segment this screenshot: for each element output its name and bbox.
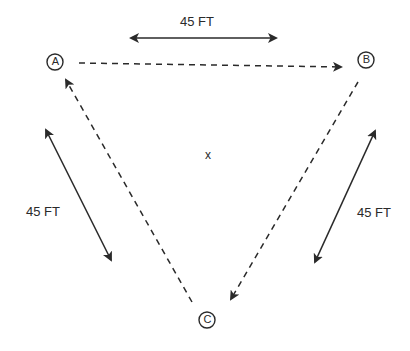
node-label-a: A	[51, 55, 60, 67]
pass-arrow-c-to-a	[66, 80, 192, 302]
node-label-b: B	[362, 53, 371, 65]
node-label-c: C	[203, 313, 212, 325]
center-mark: x	[205, 148, 211, 162]
distance-label-left: 45 FT	[26, 204, 60, 219]
distance-arrow-left	[46, 130, 111, 260]
triangle-passing-diagram	[0, 0, 410, 351]
distance-label-right: 45 FT	[357, 205, 391, 220]
distance-label-top: 45 FT	[180, 14, 214, 29]
distance-arrow-right	[315, 131, 375, 262]
pass-arrow-b-to-c	[231, 82, 358, 299]
pass-arrow-a-to-b	[79, 63, 341, 67]
